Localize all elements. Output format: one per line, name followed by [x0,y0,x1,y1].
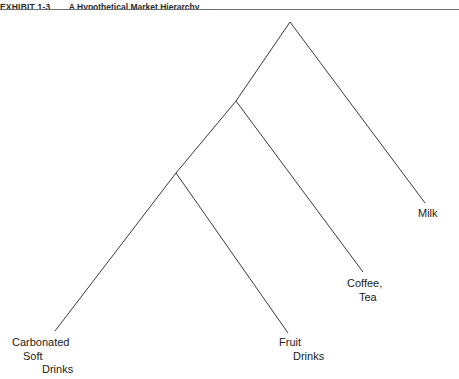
leaf-line-fruit: Fruit [279,336,324,350]
exhibit-page: EXHIBIT 1-3 A Hypothetical Market Hierar… [0,0,459,379]
branch-node-2-to-coffee-tea [236,101,363,272]
leaf-label-fruit-drinks: Fruit Drinks [279,336,324,363]
leaf-line-coffee: Coffee, [347,277,382,291]
leaf-label-milk: Milk [418,207,438,221]
leaf-line-milk: Milk [418,207,438,221]
branch-node-3-to-fruit-drinks [176,173,288,333]
branch-node-3-to-carbonated [55,173,176,331]
branch-apex-to-milk [290,22,425,203]
leaf-label-coffee-tea: Coffee, Tea [347,277,382,304]
leaf-line-drinks: Drinks [12,363,73,377]
leaf-line-carbonated: Carbonated [12,336,73,350]
leaf-line-soft: Soft [12,350,73,364]
leaf-label-carbonated-soft-drinks: Carbonated Soft Drinks [12,336,73,377]
branch-apex-to-node-2 [236,22,290,101]
leaf-line-tea: Tea [347,291,382,305]
branch-node-2-to-node-3 [176,101,236,173]
leaf-line-fruit-drinks: Drinks [279,350,324,364]
market-hierarchy-tree [0,0,459,379]
